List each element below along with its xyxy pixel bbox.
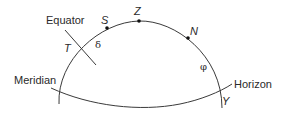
point-s-label: S [101,14,109,26]
point-z-label: Z [133,5,142,17]
point-y-label: Y [222,95,230,107]
point-n-label: N [190,25,198,37]
horizon-curve [51,84,232,107]
angle-delta-label: δ [95,39,101,50]
point-t-label: T [64,42,72,54]
angle-phi-label: φ [200,61,207,72]
horizon-label: Horizon [234,78,272,90]
meridian-label: Meridian [14,74,56,86]
equator-label: Equator [46,14,85,26]
point-s [105,26,109,30]
point-z [137,19,141,23]
celestial-diagram: Equator Meridian Horizon S Z N T Y δ φ [0,0,290,113]
